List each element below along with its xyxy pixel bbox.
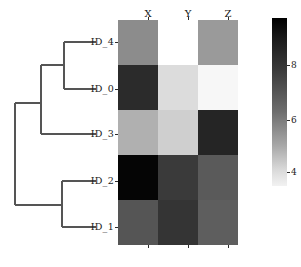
- heatmap-cell: [198, 20, 238, 65]
- colorbar-tick-label-6: 6: [291, 115, 297, 125]
- heatmap-cell: [118, 200, 158, 245]
- bottom-tick-1: [148, 245, 149, 248]
- colorbar-tick-label-4: 4: [291, 167, 297, 177]
- heatmap-cell: [118, 110, 158, 155]
- row-label-id0: ID_0: [72, 83, 114, 94]
- colorbar-tick-label-8: 8: [291, 60, 297, 70]
- colorbar-tick-mark-8: [287, 65, 290, 66]
- colorbar: [272, 18, 287, 186]
- colorbar-tick-mark-4: [287, 172, 290, 173]
- bottom-tick-3: [228, 245, 229, 248]
- dendrogram-merge-id4-id0: [41, 42, 64, 89]
- dendrogram-merge-id4id0-id3: [15, 65, 41, 134]
- clustered-heatmap-figure: ID_4 ID_0 ID_3 ID_2 ID_1 X Y Z 8 6: [0, 0, 301, 267]
- heatmap-cell: [198, 155, 238, 200]
- colorbar-tick-mark-6: [287, 120, 290, 121]
- row-label-id3: ID_3: [72, 128, 114, 139]
- heatmap-cell: [118, 155, 158, 200]
- heatmap-cell: [118, 20, 158, 65]
- heatmap-cell: [158, 200, 198, 245]
- heatmap-cell: [158, 110, 198, 155]
- dendrogram-merge-id2-id1: [15, 181, 62, 227]
- heatmap-cell: [158, 155, 198, 200]
- figure-title-fragment: [150, 0, 301, 8]
- row-label-id1: ID_1: [72, 221, 114, 232]
- heatmap-cell: [198, 200, 238, 245]
- row-label-id2: ID_2: [72, 175, 114, 186]
- bottom-tick-2: [188, 245, 189, 248]
- heatmap-cell: [198, 65, 238, 110]
- heatmap-cell: [158, 65, 198, 110]
- heatmap-cell: [198, 110, 238, 155]
- heatmap-grid: [118, 20, 238, 245]
- heatmap-cell: [158, 20, 198, 65]
- row-label-id4: ID_4: [72, 36, 114, 47]
- heatmap-cell: [118, 65, 158, 110]
